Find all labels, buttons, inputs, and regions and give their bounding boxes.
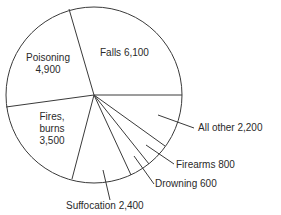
label-firearms: Firearms 800 <box>176 159 235 171</box>
label-fires-value: 3,500 <box>32 135 72 147</box>
label-fires-line2: burns <box>32 123 72 135</box>
label-all-other: All other 2,200 <box>198 122 263 134</box>
label-poisoning-value: 4,900 <box>22 64 74 76</box>
label-poisoning: Poisoning 4,900 <box>22 52 74 76</box>
label-fires-burns: Fires, burns 3,500 <box>32 111 72 147</box>
pie-chart <box>0 0 281 215</box>
label-falls: Falls 6,100 <box>100 47 149 59</box>
label-suffocation: Suffocation 2,400 <box>66 200 144 212</box>
label-poisoning-name: Poisoning <box>22 52 74 64</box>
label-drowning: Drowning 600 <box>155 178 217 190</box>
label-fires-line1: Fires, <box>32 111 72 123</box>
